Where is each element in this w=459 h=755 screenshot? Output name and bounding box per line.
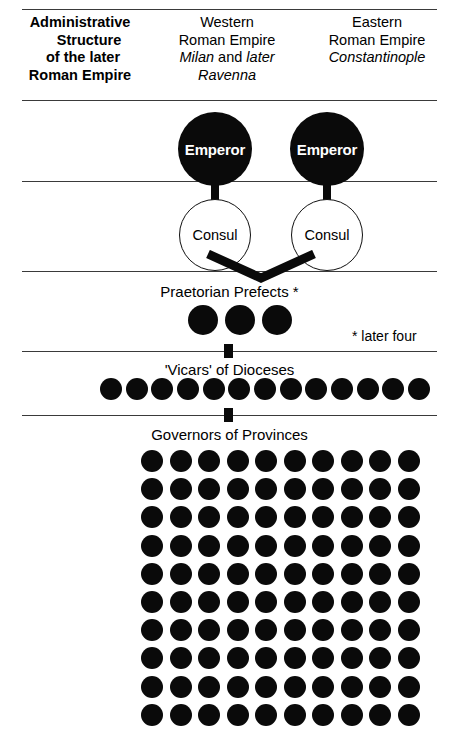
governor-dot [312,535,334,557]
emperor-label-east: Emperor [297,141,357,158]
governor-dot [398,478,420,500]
eastern-line-2: Roman Empire [302,32,452,50]
emperor-circle-east: Emperor [290,112,364,186]
governor-dot [341,506,363,528]
governor-dot [398,619,420,641]
governor-dot [198,563,220,585]
governor-dot [227,478,249,500]
praetorian-prefect-dot [225,305,255,335]
governor-dot [170,704,192,726]
governor-dot [227,506,249,528]
western-line-1: Western [152,14,302,32]
connector-prefects-vicars [224,344,233,358]
vicar-dot [126,378,148,400]
praetorian-prefect-dot [188,305,218,335]
governor-dot [255,535,277,557]
governor-dot [170,478,192,500]
governor-dot [369,535,391,557]
consul-label-east: Consul [304,227,349,243]
governor-dot [255,619,277,641]
governor-dot [369,563,391,585]
governor-dot [227,591,249,613]
governor-dot [198,647,220,669]
vicar-dot [254,378,276,400]
governor-dot [369,506,391,528]
governor-dot [312,591,334,613]
western-capital-join: and [214,49,246,65]
governor-dot [369,478,391,500]
governor-dot [369,676,391,698]
vicar-dot [228,378,250,400]
governor-dot [284,591,306,613]
governor-dot [141,563,163,585]
header-western-empire: Western Roman Empire Milan and later Rav… [152,14,302,85]
vicar-dot [280,378,302,400]
rule-below-header [22,100,437,101]
governor-dot [341,535,363,557]
diagram-canvas: Administrative Structure of the later Ro… [0,0,459,755]
praetorian-prefects-label: Praetorian Prefects * [0,283,459,300]
governor-dot [255,676,277,698]
governor-dot [170,676,192,698]
governor-dot [255,591,277,613]
governor-dot [170,506,192,528]
western-capital-line-1: Milan and later [152,49,302,67]
governor-dot [170,647,192,669]
vicars-dot-row [0,378,459,402]
governor-dot [398,506,420,528]
emperor-circle-west: Emperor [178,112,252,186]
governor-dot [255,478,277,500]
governor-dot [398,535,420,557]
vicar-dot [100,378,122,400]
governor-dot [255,647,277,669]
governor-dot [198,506,220,528]
western-capital-ravenna: Ravenna [152,67,302,85]
governors-label: Governors of Provinces [0,426,459,443]
governor-dot [284,676,306,698]
governor-dot [369,619,391,641]
prefects-footnote: * later four [352,328,417,344]
governor-dot [312,450,334,472]
vicar-dot [331,378,353,400]
governor-dot [198,591,220,613]
header-row: Administrative Structure of the later Ro… [0,14,459,85]
governor-dot [369,591,391,613]
governor-dot [341,478,363,500]
governor-dot [227,450,249,472]
eastern-line-1: Eastern [302,14,452,32]
governor-dot [284,563,306,585]
header-eastern-empire: Eastern Roman Empire Constantinople [302,14,452,67]
governor-dot [341,676,363,698]
governors-dot-grid [0,450,459,740]
governor-dot [398,704,420,726]
governor-dot [141,535,163,557]
connector-consuls-v-join [196,250,326,284]
governor-dot [284,478,306,500]
governor-dot [141,647,163,669]
governor-dot [227,563,249,585]
title-line-2: Structure [8,32,152,50]
vicar-dot [151,378,173,400]
governor-dot [198,704,220,726]
governor-dot [284,619,306,641]
governor-dot [369,647,391,669]
governor-dot [141,450,163,472]
rule-top [22,9,437,10]
governor-dot [198,450,220,472]
governor-dot [398,647,420,669]
governor-dot [312,619,334,641]
governor-dot [284,450,306,472]
governor-dot [198,478,220,500]
vicar-dot [203,378,225,400]
consul-label-west: Consul [192,227,237,243]
governor-dot [284,506,306,528]
governor-dot [255,506,277,528]
governor-dot [141,704,163,726]
governor-dot [369,704,391,726]
title-line-3: of the later [8,49,152,67]
governor-dot [312,506,334,528]
western-capital-later: later [246,49,274,65]
western-line-2: Roman Empire [152,32,302,50]
vicar-dot [177,378,199,400]
vicar-dot [408,378,430,400]
